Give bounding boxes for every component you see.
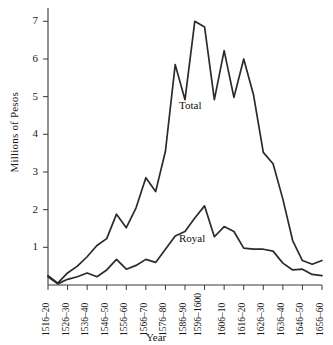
treasure-imports-chart: 1234567 1516–201526–301536–401546–501556… [0, 0, 333, 345]
y-tick-label: 4 [22, 128, 38, 139]
y-tick-label: 7 [22, 15, 38, 26]
x-tick-label: 1636–40 [277, 292, 287, 336]
x-tick-label: 1556–60 [120, 292, 130, 336]
y-tick-label: 5 [22, 91, 38, 102]
x-tick-label: 1606–10 [218, 292, 228, 336]
x-tick-label: 1646–50 [296, 292, 306, 336]
y-tick-label: 6 [22, 53, 38, 64]
x-tick-label: 1526–30 [62, 292, 72, 336]
x-tick-label: 1586–90 [179, 292, 189, 336]
x-tick-label: 1576–80 [159, 292, 169, 336]
x-tick-label-line2: 1600 [193, 293, 203, 312]
y-tick-label: 1 [22, 241, 38, 252]
x-tick-label: 1546–50 [101, 292, 111, 336]
chart-series-group [48, 21, 322, 284]
x-axis-title: Year [146, 331, 166, 343]
series-line-royal [48, 206, 322, 284]
x-tick-label: 1536–40 [81, 292, 91, 336]
x-tick-label: 1516–20 [42, 292, 52, 336]
x-tick-label: 1566–70 [140, 292, 150, 336]
x-tick-label-line1: 1596– [193, 312, 203, 336]
y-axis-title: Millions of Pesos [8, 92, 20, 172]
x-tick-label: 1596–1600 [194, 292, 204, 336]
y-tick-label: 2 [22, 204, 38, 215]
x-axis-ticks [48, 285, 322, 290]
y-axis-ticks [43, 21, 48, 247]
x-tick-label: 1626–30 [257, 292, 267, 336]
royal-series-label: Royal [179, 232, 205, 244]
x-tick-label: 1616–20 [238, 292, 248, 336]
y-tick-label: 3 [22, 166, 38, 177]
chart-axes [43, 8, 322, 290]
x-tick-label: 1656–60 [316, 292, 326, 336]
total-series-label: Total [179, 99, 201, 111]
